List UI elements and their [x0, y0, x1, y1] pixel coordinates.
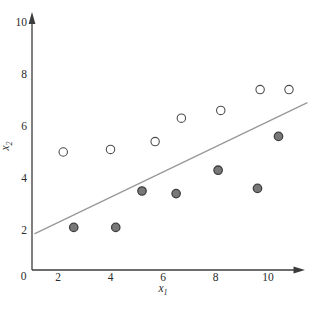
- data-point-open: [177, 114, 185, 122]
- scatter-chart: 2468102468100x1x2: [0, 0, 319, 309]
- x-tick-label: 2: [55, 271, 61, 283]
- y-tick-label: 6: [21, 120, 27, 132]
- data-point-filled: [274, 132, 282, 140]
- origin-label: 0: [21, 270, 27, 282]
- y-tick-label: 10: [16, 16, 28, 28]
- y-axis-arrow-icon: [29, 12, 36, 24]
- y-tick-label: 2: [21, 224, 27, 236]
- data-point-filled: [138, 187, 146, 195]
- figure: 2468102468100x1x2: [0, 0, 319, 309]
- x-tick-label: 10: [262, 271, 274, 283]
- data-point-filled: [70, 223, 78, 231]
- data-point-filled: [112, 223, 120, 231]
- separator-line: [34, 103, 307, 234]
- data-point-filled: [253, 184, 261, 192]
- data-point-open: [217, 106, 225, 114]
- data-point-open: [151, 137, 159, 145]
- y-axis-label: x2: [0, 141, 14, 151]
- data-point-open: [285, 85, 293, 93]
- y-tick-label: 4: [21, 172, 27, 184]
- x-tick-label: 4: [108, 271, 114, 283]
- data-point-filled: [172, 189, 180, 197]
- data-point-open: [106, 145, 114, 153]
- y-tick-label: 8: [21, 68, 27, 80]
- data-point-open: [59, 148, 67, 156]
- data-point-filled: [214, 166, 222, 174]
- x-tick-label: 8: [213, 271, 219, 283]
- x-axis-label: x1: [157, 282, 167, 297]
- x-axis-arrow-icon: [294, 267, 306, 274]
- data-point-open: [256, 85, 264, 93]
